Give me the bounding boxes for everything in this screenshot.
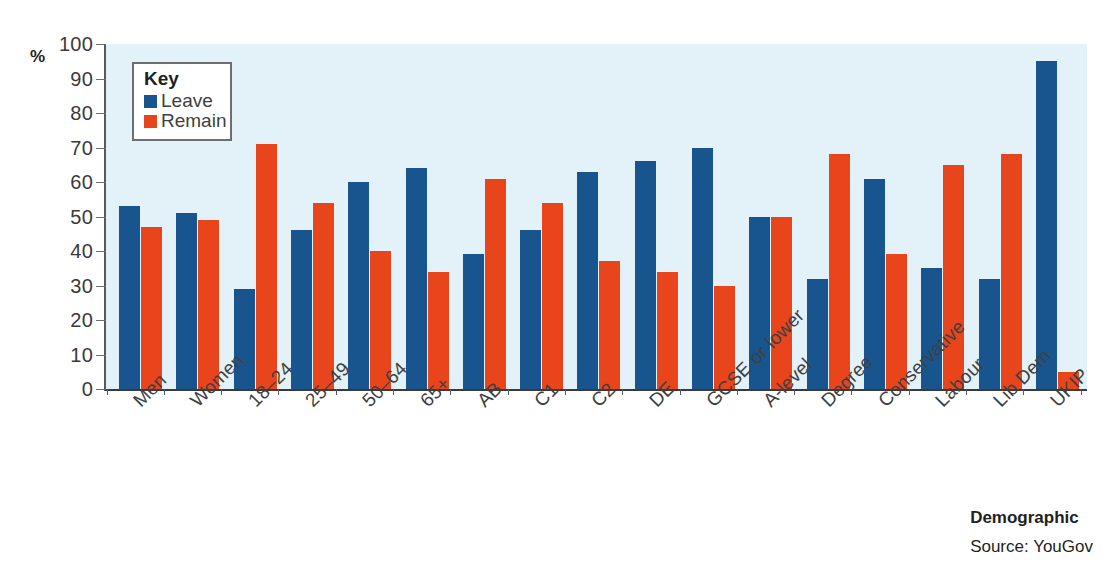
bar-group: [692, 44, 735, 389]
bar-group: [979, 44, 1022, 389]
bar-group: [520, 44, 563, 389]
y-axis-tick: [96, 251, 106, 252]
bar-remain: [313, 203, 334, 389]
bar-leave: [692, 148, 713, 390]
x-axis-tick: [107, 389, 108, 395]
bar-group: [577, 44, 620, 389]
legend-title: Key: [144, 69, 222, 89]
y-axis-tick-label: 80: [70, 102, 93, 125]
legend-swatch-icon: [144, 115, 157, 128]
legend-label: Remain: [161, 111, 226, 132]
x-axis-tick: [565, 389, 566, 395]
bar-remain: [771, 217, 792, 390]
y-axis-tick-label: 40: [70, 240, 93, 263]
bar-remain: [657, 272, 678, 389]
y-axis-tick-label: 0: [82, 378, 93, 401]
y-axis-tick: [96, 320, 106, 321]
y-axis-tick-label: 90: [70, 67, 93, 90]
x-axis-title: Demographic: [970, 508, 1093, 528]
y-axis-tick: [96, 79, 106, 80]
y-axis-tick: [96, 355, 106, 356]
y-axis-tick: [96, 148, 106, 149]
bar-group: [463, 44, 506, 389]
bar-remain: [256, 144, 277, 389]
bar-remain: [829, 154, 850, 389]
bar-group: [348, 44, 391, 389]
y-axis-tick: [96, 44, 106, 45]
y-axis-tick-label: 50: [70, 205, 93, 228]
legend-entry-leave: Leave: [144, 91, 222, 112]
bar-remain: [428, 272, 449, 389]
bar-leave: [119, 206, 140, 389]
bar-leave: [348, 182, 369, 389]
bar-remain: [485, 179, 506, 389]
chart-legend: Key LeaveRemain: [132, 62, 232, 141]
bar-leave: [577, 172, 598, 389]
chart-footer: Demographic Source: YouGov: [970, 508, 1093, 557]
y-axis-tick: [96, 182, 106, 183]
y-axis-tick: [96, 389, 106, 390]
bar-leave: [635, 161, 656, 389]
bar-leave: [520, 230, 541, 389]
bar-remain: [1001, 154, 1022, 389]
y-axis-tick-label: 60: [70, 171, 93, 194]
y-axis-tick-label: 20: [70, 309, 93, 332]
bar-group: [234, 44, 277, 389]
bar-group: [635, 44, 678, 389]
bar-remain: [198, 220, 219, 389]
source-note: Source: YouGov: [970, 537, 1093, 557]
y-axis-unit-label: %: [30, 47, 45, 67]
bar-group: [291, 44, 334, 389]
bar-leave: [406, 168, 427, 389]
bar-remain: [943, 165, 964, 389]
y-axis-tick-label: 10: [70, 343, 93, 366]
legend-entries: LeaveRemain: [144, 91, 222, 132]
x-axis-tick: [508, 389, 509, 395]
y-axis-tick: [96, 113, 106, 114]
bar-group: [807, 44, 850, 389]
bar-remain: [542, 203, 563, 389]
legend-label: Leave: [161, 91, 213, 112]
x-axis-tick: [622, 389, 623, 395]
bar-group: [1036, 44, 1079, 389]
bar-remain: [141, 227, 162, 389]
y-axis-tick: [96, 286, 106, 287]
y-axis-tick-label: 30: [70, 274, 93, 297]
bar-leave: [176, 213, 197, 389]
bar-group: [406, 44, 449, 389]
y-axis-tick: [96, 217, 106, 218]
bar-leave: [463, 254, 484, 389]
legend-swatch-icon: [144, 95, 157, 108]
bar-remain: [599, 261, 620, 389]
bar-group: [864, 44, 907, 389]
legend-entry-remain: Remain: [144, 111, 222, 132]
y-axis-tick-label: 100: [59, 33, 93, 56]
bar-leave: [291, 230, 312, 389]
bar-leave: [1036, 61, 1057, 389]
y-axis-tick-label: 70: [70, 136, 93, 159]
